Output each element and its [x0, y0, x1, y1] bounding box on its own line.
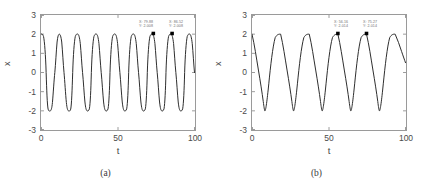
panel-b-datatip-marker-2[interactable] [365, 32, 369, 36]
panel-a-datatip-1: X: 79.88 Y: 2.008 [139, 20, 153, 29]
panel-b-xtick-0: 0 [250, 134, 255, 143]
panel-b: 3 2 1 0 -1 -2 -3 x [211, 0, 422, 195]
panel-b-ytick-neg2: -2 [223, 107, 247, 116]
panel-a-datatip-2-y: Y: 2.008 [169, 24, 183, 28]
figure-two-panel-timeseries: 3 2 1 0 -1 -2 -3 x [0, 0, 422, 195]
panel-a-datatip-marker-1[interactable] [152, 32, 156, 36]
panel-b-ytick-1: 1 [223, 49, 247, 58]
panel-b-xtick-50: 50 [324, 134, 333, 143]
panel-b-tickmarks-y [252, 15, 406, 129]
panel-a-series-line [41, 34, 195, 111]
panel-b-datatip-1-y: Y: 2.014 [334, 24, 348, 28]
panel-a-axes: X: 79.88 Y: 2.008 X: 86.52 Y: 2.008 [40, 14, 196, 131]
panel-b-axes: X: 56.16 Y: 2.014 X: 75.27 Y: 2.014 [251, 14, 407, 131]
panel-a-datatip-marker-2[interactable] [170, 32, 174, 36]
panel-b-xlabel: t [328, 146, 331, 156]
panel-a-ytick-0: 0 [12, 68, 36, 77]
panel-a-datatip-1-y: Y: 2.008 [139, 24, 153, 28]
panel-a-ytick-neg2: -2 [12, 107, 36, 116]
panel-a: 3 2 1 0 -1 -2 -3 x [0, 0, 211, 195]
panel-b-plot-area [252, 15, 406, 130]
panel-b-ytick-neg3: -3 [223, 126, 247, 135]
panel-a-xtick-50: 50 [113, 134, 122, 143]
panel-b-ytick-3: 3 [223, 11, 247, 20]
panel-a-plot-area [41, 15, 195, 130]
panel-a-xtick-100: 100 [188, 134, 202, 143]
panel-b-datatip-2: X: 75.27 Y: 2.014 [363, 20, 377, 29]
panel-b-ylabel: x [214, 62, 223, 67]
panel-b-ytick-0: 0 [223, 68, 247, 77]
panel-a-xtick-0: 0 [39, 134, 44, 143]
panel-b-datatip-1: X: 56.16 Y: 2.014 [334, 20, 348, 29]
panel-b-caption: (b) [211, 168, 422, 178]
panel-a-xlabel: t [117, 146, 120, 156]
panel-b-ytick-neg1: -1 [223, 88, 247, 97]
panel-a-ytick-2: 2 [12, 30, 36, 39]
panel-b-datatip-2-y: Y: 2.014 [363, 24, 377, 28]
panel-b-xtick-100: 100 [399, 134, 413, 143]
panel-a-ytick-neg1: -1 [12, 88, 36, 97]
panel-b-datatip-marker-1[interactable] [336, 32, 340, 36]
panel-b-series-line [252, 34, 406, 111]
panel-a-datatip-2: X: 86.52 Y: 2.008 [169, 20, 183, 29]
panel-a-ytick-neg3: -3 [12, 126, 36, 135]
panel-a-caption: (a) [0, 168, 211, 178]
panel-a-ytick-3: 3 [12, 11, 36, 20]
panel-a-ylabel: x [3, 62, 12, 67]
panel-b-tickmarks-x [252, 15, 405, 130]
panel-b-ytick-2: 2 [223, 30, 247, 39]
panel-a-ytick-1: 1 [12, 49, 36, 58]
